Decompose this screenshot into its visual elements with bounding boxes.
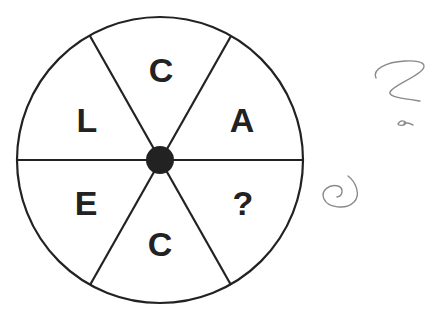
handwritten-question-mark-icon <box>375 61 424 101</box>
handwritten-annotations <box>323 61 424 207</box>
segment-bottom-letter: C <box>148 225 173 263</box>
segment-lower-right-letter: ? <box>233 184 254 222</box>
handwritten-mark-icon <box>398 121 413 126</box>
segment-upper-left-letter: L <box>77 101 98 139</box>
segment-upper-right-letter: A <box>230 101 255 139</box>
segment-lower-left-letter: E <box>75 184 98 222</box>
segment-top-letter: C <box>149 51 174 89</box>
wheel-puzzle: C A ? C E L <box>0 0 435 318</box>
handwritten-spiral-icon <box>323 176 357 207</box>
center-dot <box>146 146 174 174</box>
